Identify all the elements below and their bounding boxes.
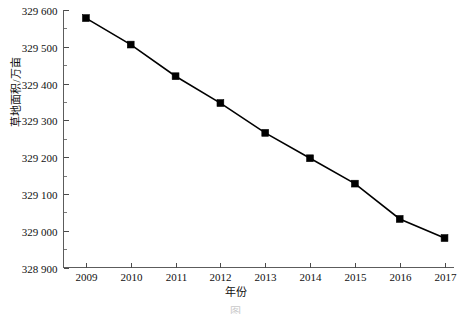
data-point-marker (217, 100, 224, 107)
x-tick-label: 2012 (210, 271, 232, 283)
series-line-path (86, 18, 445, 238)
data-point-marker (262, 129, 269, 136)
data-series-grassland-area (83, 15, 448, 242)
x-axis-ticks (87, 263, 446, 268)
data-point-marker (127, 41, 134, 48)
y-tick-label: 329 200 (22, 152, 58, 164)
data-point-marker (83, 15, 90, 22)
x-tick-label: 2009 (76, 271, 99, 283)
x-tick-label: 2010 (121, 271, 144, 283)
y-tick-label: 329 000 (22, 226, 58, 238)
figure-container: 328 900329 000329 100329 200329 300329 4… (0, 0, 471, 314)
line-chart: 328 900329 000329 100329 200329 300329 4… (0, 0, 471, 314)
x-axis-title: 年份 (0, 286, 471, 299)
data-point-marker (172, 73, 179, 80)
x-tick-label: 2013 (255, 271, 278, 283)
y-tick-label: 329 500 (22, 42, 58, 54)
y-axis-ticks (64, 11, 69, 269)
data-point-marker (396, 216, 403, 223)
y-tick-label: 329 100 (22, 189, 58, 201)
x-tick-label: 2014 (300, 271, 323, 283)
x-tick-label: 2017 (435, 271, 458, 283)
y-tick-label: 329 400 (22, 79, 58, 91)
x-tick-label: 2016 (390, 271, 413, 283)
x-tick-label: 2015 (345, 271, 368, 283)
y-tick-label: 328 900 (22, 263, 58, 275)
data-point-marker (307, 155, 314, 162)
data-point-marker (441, 235, 448, 242)
x-axis-tick-labels: 200920102011201220132014201520162017 (76, 271, 458, 283)
y-axis-tick-labels: 328 900329 000329 100329 200329 300329 4… (22, 5, 58, 275)
data-point-marker (351, 180, 358, 187)
y-tick-label: 329 300 (22, 115, 58, 127)
y-tick-label: 329 600 (22, 5, 58, 17)
figure-caption: 图 (0, 306, 471, 314)
y-axis-title: 草地面积/万亩 (10, 38, 22, 146)
x-tick-label: 2011 (166, 271, 188, 283)
